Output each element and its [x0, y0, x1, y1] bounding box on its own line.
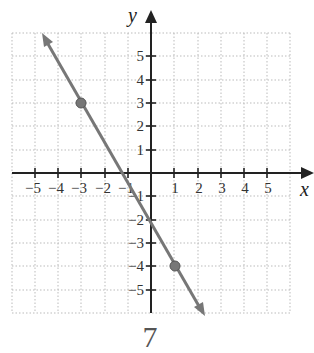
svg-text:4: 4	[241, 180, 249, 196]
svg-text:−4: −4	[128, 258, 144, 274]
svg-text:−2: −2	[128, 212, 144, 228]
y-axis-arrow-icon	[145, 10, 157, 23]
coordinate-plane: −5 −4 −3 −2 −1 1 2 3 4 5 5 4 3 2 1 −1 −2…	[0, 0, 314, 353]
svg-text:1: 1	[137, 142, 145, 158]
svg-text:3: 3	[137, 95, 145, 111]
svg-text:5: 5	[137, 48, 145, 64]
svg-text:4: 4	[137, 72, 145, 88]
line-arrow-down-icon	[194, 302, 205, 316]
svg-text:5: 5	[264, 180, 272, 196]
svg-text:3: 3	[218, 180, 226, 196]
x-axis-label: x	[299, 178, 309, 200]
svg-text:−5: −5	[128, 282, 144, 298]
data-point-1	[76, 98, 86, 108]
svg-text:−3: −3	[71, 180, 87, 196]
figure-caption: 7	[0, 320, 300, 353]
svg-text:−5: −5	[25, 180, 41, 196]
svg-text:1: 1	[171, 180, 179, 196]
axes	[12, 20, 304, 313]
line-arrow-up-icon	[42, 33, 53, 47]
data-line	[42, 33, 205, 316]
x-tick-labels: −5 −4 −3 −2 −1 1 2 3 4 5	[25, 180, 272, 196]
svg-text:2: 2	[195, 180, 203, 196]
svg-text:−3: −3	[128, 235, 144, 251]
svg-text:2: 2	[137, 118, 145, 134]
y-axis-label: y	[126, 4, 137, 27]
svg-text:−4: −4	[48, 180, 64, 196]
svg-text:−2: −2	[95, 180, 111, 196]
data-point-2	[170, 261, 180, 271]
